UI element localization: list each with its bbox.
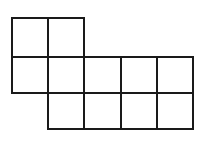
grid-square	[12, 57, 48, 93]
grid-diagram	[0, 0, 205, 143]
grid-square	[84, 93, 121, 129]
grid-square	[157, 93, 193, 129]
grid-square	[84, 57, 121, 93]
grid-square	[12, 18, 48, 57]
grid-square	[121, 93, 157, 129]
grid-square	[48, 93, 84, 129]
grid-square	[48, 57, 84, 93]
grid-square	[48, 18, 84, 57]
grid-square	[121, 57, 157, 93]
grid-square	[157, 57, 193, 93]
